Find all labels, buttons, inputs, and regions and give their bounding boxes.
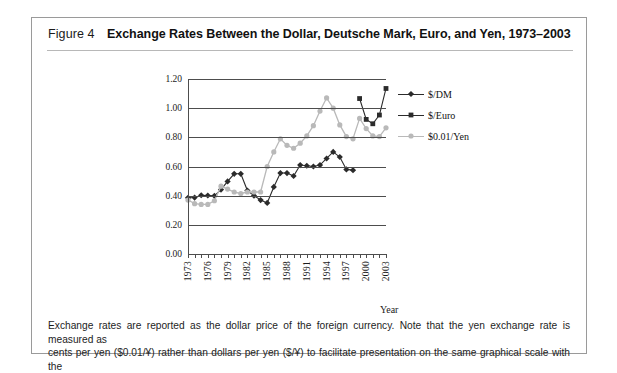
data-point-marker (258, 189, 263, 194)
x-tick-label: 1991 (302, 261, 312, 281)
x-tick (373, 254, 374, 258)
data-point-marker (225, 187, 230, 192)
gridline (188, 196, 386, 197)
data-point-marker (311, 123, 316, 128)
data-point-marker (408, 133, 413, 138)
x-tick (320, 254, 321, 258)
legend-item--euro[interactable]: $/Euro (398, 105, 469, 126)
x-tick (287, 254, 288, 258)
data-point-marker (192, 201, 197, 206)
data-point-marker (205, 202, 210, 207)
legend-marker (398, 115, 424, 116)
data-point-marker (218, 184, 223, 189)
x-tick (333, 254, 334, 258)
x-tick (366, 254, 367, 258)
data-point-marker (324, 95, 329, 100)
legend-marker (398, 94, 424, 95)
data-point-marker (409, 113, 414, 118)
y-tick-label: 1.20 (165, 74, 182, 84)
data-point-marker (364, 126, 369, 131)
data-point-marker (284, 170, 290, 176)
y-tick-label: 0.60 (165, 162, 182, 172)
x-tick (195, 254, 196, 258)
figure-caption: Exchange rates are reported as the dolla… (32, 310, 586, 373)
x-tick (221, 254, 222, 258)
x-tick (208, 254, 209, 258)
data-point-marker (212, 198, 217, 203)
x-tick (313, 254, 314, 258)
y-tick-label: 0.00 (165, 249, 182, 259)
y-tick-label: 0.80 (165, 132, 182, 142)
legend-label: $/DM (428, 89, 452, 100)
x-tick (307, 254, 308, 258)
chart-legend: $/DM$/Euro$0.01/Yen (398, 84, 469, 147)
series-line (360, 88, 386, 123)
data-point-marker (251, 189, 256, 194)
caption-line-1: Exchange rates are reported as the dolla… (48, 319, 570, 346)
x-tick (346, 254, 347, 258)
data-point-marker (245, 189, 250, 194)
x-tick (234, 254, 235, 258)
data-point-marker (284, 143, 289, 148)
data-point-marker (199, 202, 204, 207)
chart-area: 0.000.200.400.600.801.001.20 19731976197… (32, 18, 588, 303)
data-point-marker (277, 170, 283, 176)
y-tick-label: 0.40 (165, 191, 182, 201)
y-tick-label: 1.00 (165, 103, 182, 113)
caption-line-2: cents per yen ($0.01/¥) rather than doll… (48, 346, 570, 373)
x-tick-label: 1985 (262, 261, 272, 281)
x-tick-label: 1979 (223, 261, 233, 281)
x-tick (214, 254, 215, 258)
series--dm (185, 149, 356, 206)
series--euro (357, 86, 388, 126)
data-point-marker (384, 86, 389, 91)
data-point-marker (357, 116, 362, 121)
x-tick (254, 254, 255, 258)
data-point-marker (298, 141, 303, 146)
gridline (188, 79, 386, 80)
data-point-marker (291, 146, 296, 151)
data-point-marker (370, 121, 375, 126)
series-line (188, 98, 386, 204)
data-point-marker (364, 117, 369, 122)
x-tick (241, 254, 242, 258)
legend-item--0-01-yen[interactable]: $0.01/Yen (398, 126, 469, 147)
legend-label: $/Euro (428, 110, 455, 121)
series--0-01-yen (185, 95, 388, 207)
x-tick (247, 254, 248, 258)
x-tick-label: 2003 (381, 261, 391, 281)
data-point-marker (408, 91, 414, 97)
x-tick (360, 254, 361, 258)
data-point-marker (232, 189, 237, 194)
data-point-marker (383, 125, 388, 130)
gridline (188, 225, 386, 226)
data-point-marker (357, 96, 362, 101)
y-tick-label: 0.20 (165, 220, 182, 230)
data-point-marker (258, 197, 264, 203)
x-tick (188, 254, 189, 258)
data-point-marker (271, 184, 277, 190)
data-point-marker (317, 108, 322, 113)
x-tick (201, 254, 202, 258)
plot-region: 0.000.200.400.600.801.001.20 19731976197… (188, 79, 386, 254)
data-point-marker (377, 113, 382, 118)
x-tick (261, 254, 262, 258)
data-point-marker (337, 122, 342, 127)
legend-label: $0.01/Yen (428, 131, 469, 142)
figure-container: Figure 4 Exchange Rates Between the Doll… (31, 17, 587, 354)
x-tick (280, 254, 281, 258)
gridline (188, 108, 386, 109)
data-point-marker (291, 173, 297, 179)
x-tick (228, 254, 229, 258)
x-tick-label: 1973 (183, 261, 193, 281)
gridline (188, 167, 386, 168)
data-point-marker (271, 149, 276, 154)
x-tick (386, 254, 387, 258)
x-tick-label: 1982 (242, 261, 252, 281)
x-tick-label: 1994 (322, 261, 332, 281)
x-tick-label: 1988 (282, 261, 292, 281)
legend-marker (398, 136, 424, 137)
data-point-marker (350, 167, 356, 173)
x-tick-label: 1997 (341, 261, 351, 281)
legend-item--dm[interactable]: $/DM (398, 84, 469, 105)
